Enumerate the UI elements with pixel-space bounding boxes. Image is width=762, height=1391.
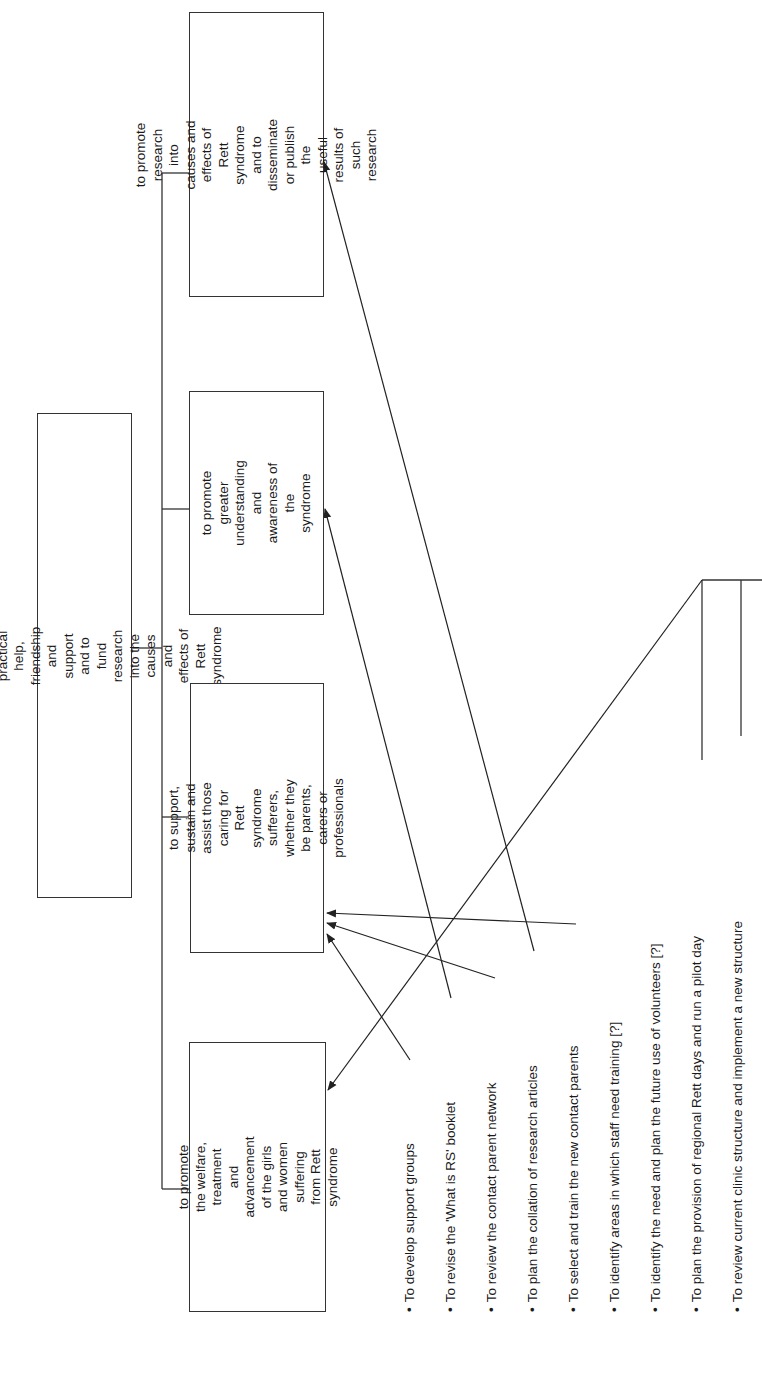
arrow-develop-support-groups [327, 934, 410, 1060]
objective-welfare-box: to promote the welfare, treatment and ad… [189, 1042, 326, 1312]
objective-awareness-text: to promote greater understanding and awa… [199, 460, 315, 546]
action-item: •To plan the collation of research artic… [525, 1065, 541, 1312]
bullet-icon: • [730, 1307, 745, 1312]
objective-awareness-box: to promote greater understanding and awa… [189, 391, 324, 615]
bullet-icon: • [566, 1307, 581, 1312]
bullet-icon: • [443, 1307, 458, 1312]
objective-welfare-text: to promote the welfare, treatment and ad… [175, 1136, 340, 1217]
arrow-research-articles [324, 162, 534, 951]
action-item: •To review the contact parent network [484, 1082, 500, 1312]
arrow-bracket-to-welfare [328, 580, 702, 1090]
bullet-icon: • [402, 1307, 417, 1312]
action-item: •To plan the provision of regional Rett … [689, 936, 705, 1312]
action-item: •To review current clinic structure and … [730, 921, 746, 1312]
root-goal-box: To raise money to provide practical help… [37, 413, 132, 898]
root-goal-text: To raise money to provide practical help… [0, 626, 225, 685]
bullet-icon: • [648, 1307, 663, 1312]
bullet-icon: • [607, 1307, 622, 1312]
action-item: •To revise the 'What is RS' booklet [443, 1102, 459, 1312]
arrow-revise-booklet [325, 509, 451, 998]
bullet-icon: • [484, 1307, 499, 1312]
action-item: •To develop support groups [402, 1143, 418, 1312]
action-item: •To identify areas in which staff need t… [607, 1022, 623, 1312]
arrow-contact-network [327, 923, 495, 978]
objective-support-box: to support, sustain and assist those car… [190, 683, 324, 953]
objective-support-text: to support, sustain and assist those car… [166, 778, 348, 858]
action-item: •To identify the need and plan the futur… [648, 944, 664, 1312]
bullet-icon: • [525, 1307, 540, 1312]
objective-research-text: to promote research into causes and effe… [133, 118, 381, 190]
action-item: •To select and train the new contact par… [566, 1046, 582, 1312]
objective-research-box: to promote research into causes and effe… [189, 12, 324, 297]
bullet-icon: • [689, 1307, 704, 1312]
